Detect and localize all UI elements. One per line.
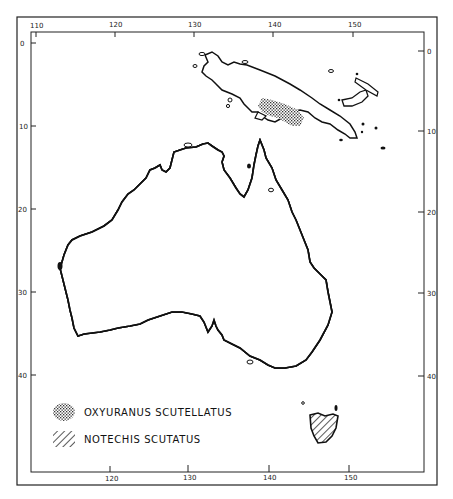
top-longitude-labels: 110 120 130 140 150 (30, 21, 361, 30)
svg-text:140: 140 (263, 474, 276, 482)
svg-text:150: 150 (344, 474, 357, 482)
top-longitude-axis (36, 32, 353, 37)
svg-text:20: 20 (427, 209, 436, 217)
australia (58, 140, 338, 411)
right-latitude-labels: 0 10 20 30 40 (427, 48, 436, 381)
dotted-pattern-swatch (53, 403, 75, 421)
svg-text:150: 150 (348, 21, 361, 29)
svg-text:120: 120 (105, 475, 118, 483)
svg-text:0: 0 (20, 40, 24, 48)
svg-text:10: 10 (19, 123, 28, 131)
svg-text:140: 140 (268, 21, 281, 29)
svg-text:NOTECHIS SCUTATUS: NOTECHIS SCUTATUS (84, 434, 201, 445)
new-guinea (193, 52, 386, 150)
legend-item-oxyuranus: OXYURANUS SCUTELLATUS (53, 403, 232, 421)
left-latitude-labels: 0 10 20 30 40 (18, 40, 28, 380)
tasmania (310, 413, 338, 443)
legend: OXYURANUS SCUTELLATUS NOTECHIS SCUTATUS (53, 403, 232, 447)
svg-text:130: 130 (188, 21, 201, 29)
distribution-map: 110 120 130 140 150 120 130 140 150 0 10… (0, 0, 453, 499)
legend-item-notechis: NOTECHIS SCUTATUS (53, 431, 201, 447)
svg-text:10: 10 (427, 128, 436, 136)
svg-text:40: 40 (427, 373, 436, 381)
bottom-longitude-axis (110, 465, 349, 472)
bottom-longitude-labels: 120 130 140 150 (105, 474, 357, 483)
svg-text:20: 20 (18, 206, 27, 214)
svg-text:30: 30 (427, 290, 436, 298)
svg-text:120: 120 (109, 21, 122, 29)
svg-text:40: 40 (18, 372, 27, 380)
svg-text:OXYURANUS SCUTELLATUS: OXYURANUS SCUTELLATUS (84, 407, 232, 418)
left-latitude-axis (31, 43, 36, 375)
svg-text:0: 0 (427, 48, 431, 56)
svg-text:130: 130 (183, 474, 196, 482)
hatch-pattern-swatch (53, 431, 75, 447)
right-latitude-axis (418, 51, 424, 376)
svg-text:30: 30 (18, 289, 27, 297)
svg-text:110: 110 (30, 22, 43, 30)
